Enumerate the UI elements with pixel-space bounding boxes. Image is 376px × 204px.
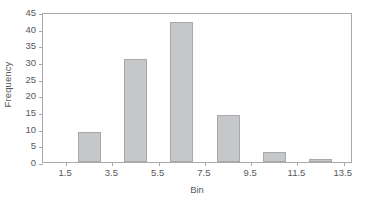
plot-area [42,13,352,163]
histogram-bar [217,115,240,162]
x-axis-tick-label: 1.5 [59,168,72,178]
histogram-bar [263,152,286,162]
y-axis-tick-labels: 051015202530354045 [16,0,38,168]
y-axis-tick [39,14,43,15]
y-axis-tick-label: 5 [31,142,36,152]
y-axis-tick-label: 25 [25,75,36,85]
x-axis-tick-label: 5.5 [151,168,164,178]
y-axis-tick [39,47,43,48]
x-axis-tick [159,162,160,166]
x-axis-tick-label: 11.5 [288,168,306,178]
histogram-bar [309,159,332,162]
x-axis-tick [251,162,252,166]
x-axis-tick-label: 3.5 [105,168,118,178]
x-axis-title: Bin [42,184,352,195]
y-axis-title-label: Frequency [3,61,14,107]
y-axis-tick [39,64,43,65]
y-axis-tick-label: 15 [25,108,36,118]
y-axis-tick-label: 10 [25,125,36,135]
y-axis-tick [39,31,43,32]
x-axis-tick [112,162,113,166]
x-axis-tick-labels: 1.53.55.57.59.511.513.5 [42,168,352,182]
y-axis-tick-label: 45 [25,8,36,18]
histogram-bar [78,132,101,162]
x-axis-tick [344,162,345,166]
y-axis-tick-label: 20 [25,92,36,102]
x-axis-tick [66,162,67,166]
histogram-bar [124,59,147,162]
x-axis-tick [297,162,298,166]
plot-inner [43,14,351,162]
y-axis-tick-label: 35 [25,42,36,52]
y-axis-tick-label: 30 [25,58,36,68]
y-axis-tick [39,114,43,115]
x-axis-tick-label: 13.5 [333,168,352,178]
x-axis-tick-label: 7.5 [197,168,210,178]
y-axis-tick-label: 0 [31,158,36,168]
y-axis-tick-label: 40 [25,25,36,35]
y-axis-tick [39,81,43,82]
x-axis-tick-label: 9.5 [244,168,257,178]
x-axis-tick [205,162,206,166]
y-axis-tick [39,97,43,98]
histogram-bar [170,22,193,162]
y-axis-title: Frequency [0,0,16,168]
y-axis-tick [39,131,43,132]
histogram-chart: Frequency 051015202530354045 1.53.55.57.… [0,0,376,204]
y-axis-tick [39,147,43,148]
y-axis-tick [39,164,43,165]
